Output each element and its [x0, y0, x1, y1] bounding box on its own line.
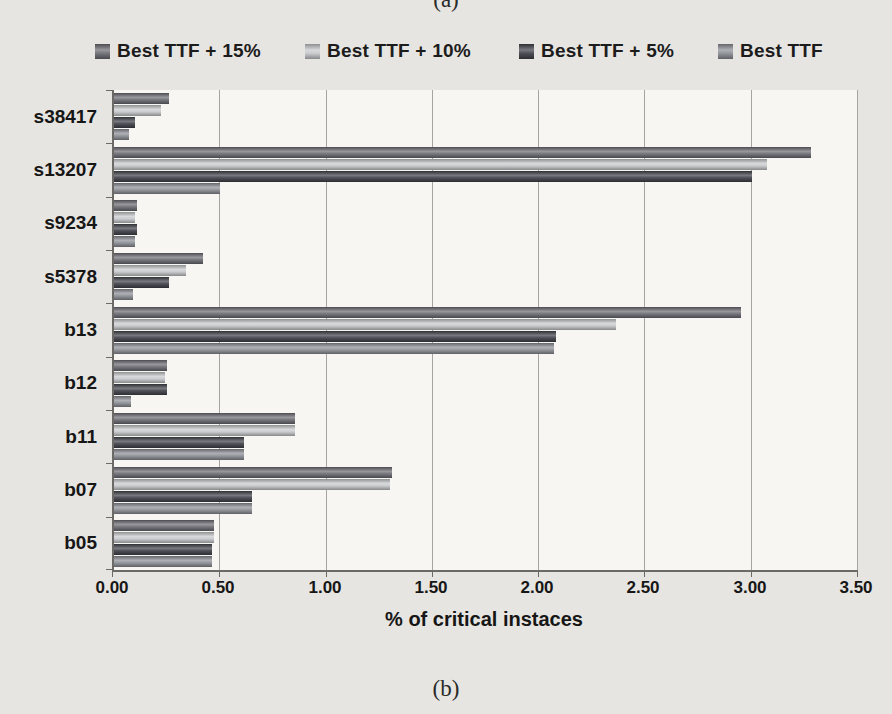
bar-s38417-best-ttf-+-5%: [114, 117, 135, 128]
bar-b11-best-ttf-+-5%: [114, 437, 244, 448]
category-label-b07: b07: [0, 479, 104, 501]
y-axis-tick: [106, 517, 114, 518]
bar-b13-best-ttf-+-15%: [114, 307, 741, 318]
bar-b11-best-ttf-+-15%: [114, 413, 295, 424]
category-label-s38417: s38417: [0, 106, 104, 128]
y-axis-tick: [106, 463, 114, 464]
bar-s5378-best-ttf-+-5%: [114, 277, 169, 288]
x-tick-label: 2.00: [520, 578, 553, 598]
bar-b12-best-ttf-+-15%: [114, 360, 167, 371]
bar-b13-best-ttf: [114, 343, 554, 354]
bar-s9234-best-ttf-+-10%: [114, 212, 135, 223]
x-tick-label: 1.50: [414, 578, 447, 598]
x-axis-tick: [219, 570, 220, 577]
bar-s9234-best-ttf-+-15%: [114, 200, 137, 211]
bar-b11-best-ttf: [114, 449, 244, 460]
caption-b: (b): [0, 676, 892, 702]
x-axis-tick: [538, 570, 539, 577]
bar-s13207-best-ttf-+-15%: [114, 147, 811, 158]
x-axis-tick: [326, 570, 327, 577]
y-axis-tick: [106, 143, 114, 144]
category-label-s5378: s5378: [0, 266, 104, 288]
category-label-b12: b12: [0, 372, 104, 394]
category-label-b05: b05: [0, 532, 104, 554]
x-tick-label: 1.00: [308, 578, 341, 598]
category-label-b13: b13: [0, 319, 104, 341]
bar-chart: s38417s13207s9234s5378b13b12b11b07b05 0.…: [0, 0, 892, 714]
bar-b12-best-ttf-+-10%: [114, 372, 165, 383]
x-tick-label: 0.50: [201, 578, 234, 598]
bar-b11-best-ttf-+-10%: [114, 425, 295, 436]
y-axis-tick: [106, 250, 114, 251]
bar-b13-best-ttf-+-5%: [114, 331, 556, 342]
bar-b07-best-ttf-+-10%: [114, 479, 390, 490]
x-tick-label: 0.00: [95, 578, 128, 598]
bar-b12-best-ttf: [114, 396, 131, 407]
x-axis-tick: [644, 570, 645, 577]
bar-s38417-best-ttf-+-15%: [114, 93, 169, 104]
bar-b12-best-ttf-+-5%: [114, 384, 167, 395]
x-tick-label: 2.50: [626, 578, 659, 598]
bar-b07-best-ttf-+-5%: [114, 491, 252, 502]
bar-s5378-best-ttf-+-10%: [114, 265, 186, 276]
y-axis-tick: [106, 303, 114, 304]
bar-b07-best-ttf-+-15%: [114, 467, 392, 478]
category-label-b11: b11: [0, 426, 104, 448]
bar-b05-best-ttf: [114, 556, 212, 567]
category-labels: s38417s13207s9234s5378b13b12b11b07b05: [0, 90, 104, 570]
y-axis-tick: [106, 90, 114, 91]
bar-s5378-best-ttf: [114, 289, 133, 300]
bar-s5378-best-ttf-+-15%: [114, 253, 203, 264]
bar-b05-best-ttf-+-15%: [114, 520, 214, 531]
bar-b07-best-ttf: [114, 503, 252, 514]
x-axis-tick-labels: 0.000.501.001.502.002.503.003.50: [112, 578, 856, 602]
bar-b05-best-ttf-+-10%: [114, 532, 214, 543]
category-label-s13207: s13207: [0, 159, 104, 181]
figure-page: (a) Best TTF + 15% Best TTF + 10% Best T…: [0, 0, 892, 714]
bar-s13207-best-ttf: [114, 183, 220, 194]
x-axis-tick: [432, 570, 433, 577]
y-axis-tick: [106, 357, 114, 358]
bar-b05-best-ttf-+-5%: [114, 544, 212, 555]
x-axis-tick: [112, 570, 113, 577]
x-tick-label: 3.50: [839, 578, 872, 598]
bar-s9234-best-ttf: [114, 236, 135, 247]
x-tick-label: 3.00: [733, 578, 766, 598]
bar-s13207-best-ttf-+-10%: [114, 159, 767, 170]
bar-b13-best-ttf-+-10%: [114, 319, 616, 330]
x-axis-tick: [857, 570, 858, 577]
x-axis-tick: [751, 570, 752, 577]
plot-area: [112, 90, 858, 572]
gridline: [857, 90, 858, 570]
bar-s13207-best-ttf-+-5%: [114, 171, 752, 182]
bar-s38417-best-ttf-+-10%: [114, 105, 161, 116]
x-axis-title: % of critical instaces: [112, 608, 856, 631]
y-axis-tick: [106, 410, 114, 411]
bar-s9234-best-ttf-+-5%: [114, 224, 137, 235]
category-label-s9234: s9234: [0, 212, 104, 234]
bar-s38417-best-ttf: [114, 129, 129, 140]
y-axis-tick: [106, 197, 114, 198]
